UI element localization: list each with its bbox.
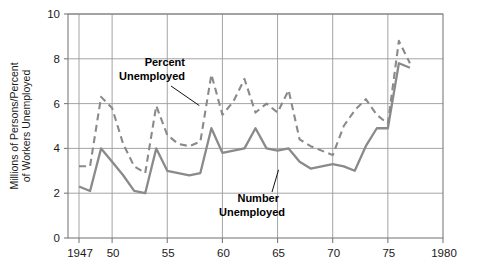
annotation-percent-line1: Percent — [145, 56, 186, 68]
x-tick-label-1980: 1980 — [431, 247, 457, 259]
chart-figure: 0246810 19475055606570751980 Percent Une… — [0, 0, 479, 274]
y-tick-label-8: 8 — [54, 53, 60, 65]
y-tick-label-10: 10 — [47, 8, 60, 20]
annotation-percent-line2: Unemployed — [119, 70, 185, 82]
x-axis: 19475055606570751980 — [67, 238, 457, 259]
plot-area-background — [68, 14, 443, 238]
x-tick-label-1975: 75 — [382, 247, 395, 259]
annotation-number-line1: Number — [237, 192, 279, 204]
unemployment-line-chart: 0246810 19475055606570751980 Percent Une… — [0, 0, 479, 274]
y-axis-title-line1: Millions of Persons/Percent — [8, 62, 20, 189]
x-tick-label-1950: 50 — [107, 247, 120, 259]
y-axis: 0246810 — [47, 8, 68, 244]
y-axis-title-line2: of Workers Unemployed — [20, 70, 32, 183]
y-tick-label-6: 6 — [54, 98, 60, 110]
x-tick-label-1955: 55 — [162, 247, 175, 259]
annotation-number-line2: Unemployed — [219, 206, 285, 218]
x-tick-label-1960: 60 — [217, 247, 230, 259]
x-tick-label-1947: 1947 — [67, 247, 93, 259]
y-tick-label-4: 4 — [54, 142, 61, 154]
x-tick-label-1970: 70 — [327, 247, 340, 259]
y-tick-label-2: 2 — [54, 187, 60, 199]
x-tick-label-1965: 65 — [272, 247, 285, 259]
y-tick-label-0: 0 — [54, 232, 60, 244]
